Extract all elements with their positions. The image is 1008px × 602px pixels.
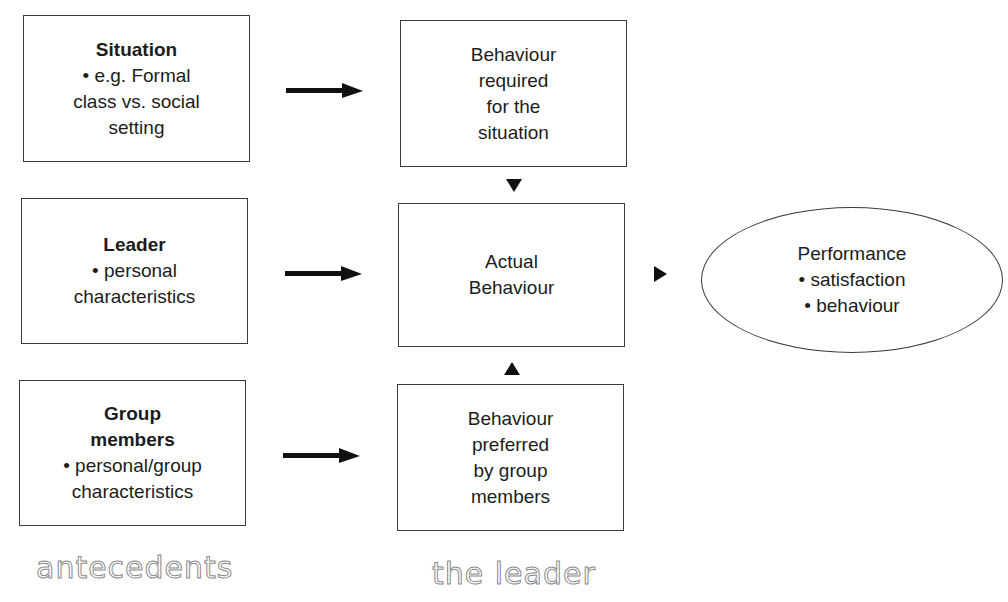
preferred-line-4: members xyxy=(471,484,550,510)
group-members-title-2: members xyxy=(90,427,175,453)
arrow-right-icon xyxy=(285,265,363,283)
arrow-down-icon xyxy=(506,179,522,193)
performance-line-1: • satisfaction xyxy=(799,267,906,293)
arrow-right-icon xyxy=(654,266,668,282)
situation-line-3: setting xyxy=(109,115,165,141)
arrow-up-icon xyxy=(504,362,520,376)
preferred-line-2: preferred xyxy=(472,432,549,458)
situation-title: Situation xyxy=(96,37,177,63)
antecedents-label: antecedents xyxy=(36,550,233,585)
required-line-4: situation xyxy=(478,120,549,146)
leader-box: Leader • personal characteristics xyxy=(21,198,248,344)
group-members-line-2: characteristics xyxy=(72,479,193,505)
required-line-1: Behaviour xyxy=(471,42,557,68)
actual-line-1: Actual xyxy=(485,249,538,275)
required-behaviour-box: Behaviour required for the situation xyxy=(400,20,627,167)
performance-title: Performance xyxy=(798,241,907,267)
group-members-box: Group members • personal/group character… xyxy=(19,380,246,526)
the-leader-label: the leader xyxy=(432,556,596,591)
preferred-behaviour-box: Behaviour preferred by group members xyxy=(397,384,624,531)
leader-title: Leader xyxy=(103,232,165,258)
group-members-title-1: Group xyxy=(104,401,161,427)
situation-line-2: class vs. social xyxy=(73,89,200,115)
situation-box: Situation • e.g. Formal class vs. social… xyxy=(23,15,250,162)
arrow-right-icon xyxy=(283,447,361,465)
actual-line-2: Behaviour xyxy=(469,275,555,301)
arrow-right-icon xyxy=(286,82,364,100)
preferred-line-3: by group xyxy=(474,458,548,484)
leader-line-1: • personal xyxy=(92,258,177,284)
situation-line-1: • e.g. Formal xyxy=(82,63,190,89)
group-members-line-1: • personal/group xyxy=(63,453,202,479)
preferred-line-1: Behaviour xyxy=(468,406,554,432)
required-line-2: required xyxy=(479,68,549,94)
actual-behaviour-box: Actual Behaviour xyxy=(398,203,625,347)
leader-line-2: characteristics xyxy=(74,284,195,310)
performance-line-2: • behaviour xyxy=(804,293,899,319)
required-line-3: for the xyxy=(487,94,541,120)
performance-ellipse: Performance • satisfaction • behaviour xyxy=(701,207,1003,353)
